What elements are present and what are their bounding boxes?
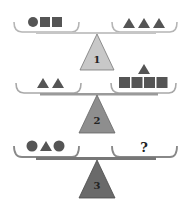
scale-3: ? 3 <box>14 140 177 198</box>
scale-number-1: 1 <box>94 54 101 65</box>
square-shape <box>119 77 130 88</box>
fulcrum-2 <box>79 95 115 133</box>
beam <box>40 93 158 96</box>
triangle-shape <box>40 141 52 151</box>
triangle-shape <box>37 78 49 88</box>
square-shape <box>40 17 50 27</box>
square-shape <box>144 77 155 88</box>
beam <box>36 32 156 34</box>
triangle-shape <box>153 18 165 28</box>
square-shape <box>52 17 62 27</box>
triangle-shape <box>123 18 135 28</box>
scale-1: 1 <box>14 17 177 70</box>
triangle-shape <box>138 18 150 28</box>
square-shape <box>157 77 168 88</box>
square-shape <box>132 77 143 88</box>
scale-number-3: 3 <box>94 180 101 191</box>
fulcrum-3 <box>79 160 115 198</box>
circle-shape <box>28 17 38 27</box>
beam <box>36 157 156 160</box>
scale-2: 2 <box>16 64 176 133</box>
triangle-shape <box>138 64 150 74</box>
triangle-shape <box>52 78 64 88</box>
circle-shape <box>54 141 65 152</box>
balance-puzzle: 1 2 ? 3 <box>0 0 190 210</box>
circle-shape <box>27 141 38 152</box>
scale-number-2: 2 <box>94 115 101 126</box>
question-mark: ? <box>140 140 148 155</box>
